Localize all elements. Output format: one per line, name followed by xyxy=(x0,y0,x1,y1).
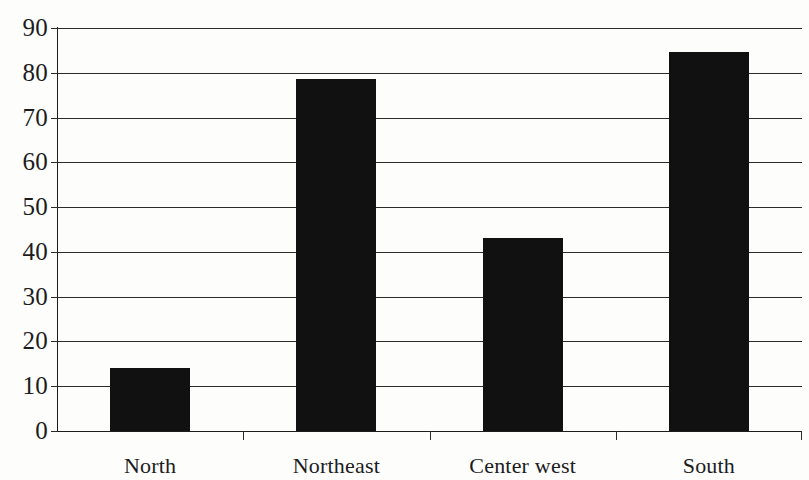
x-axis-label: North xyxy=(124,453,176,479)
y-axis-label: 80 xyxy=(22,59,48,87)
bar xyxy=(110,368,190,431)
gridline xyxy=(57,28,802,29)
y-axis-label: 90 xyxy=(22,14,48,42)
y-axis-label: 20 xyxy=(22,327,48,355)
x-axis-tick xyxy=(243,431,244,440)
bar-chart: 0102030405060708090 NorthNortheastCenter… xyxy=(0,0,809,480)
bar xyxy=(483,238,563,431)
y-axis-label: 30 xyxy=(22,283,48,311)
bar xyxy=(669,52,749,431)
x-axis-label: Center west xyxy=(469,453,576,479)
x-axis-tick xyxy=(616,431,617,440)
x-axis-label: South xyxy=(683,453,735,479)
bar xyxy=(296,79,376,431)
y-axis-label: 0 xyxy=(35,417,48,445)
plot-area: NorthNortheastCenter westSouth xyxy=(57,28,802,431)
y-axis-label: 50 xyxy=(22,193,48,221)
y-axis-label: 40 xyxy=(22,238,48,266)
x-axis-tick xyxy=(801,431,802,440)
x-axis-label: Northeast xyxy=(293,453,380,479)
x-axis-tick xyxy=(430,431,431,440)
y-axis-label: 70 xyxy=(22,104,48,132)
y-axis-label: 60 xyxy=(22,148,48,176)
y-axis-label: 10 xyxy=(22,372,48,400)
